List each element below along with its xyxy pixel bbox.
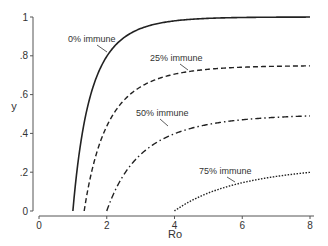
y-tick-label: 1 <box>22 12 28 23</box>
x-axis-label: Ro <box>168 228 182 240</box>
y-tick-label: 0 <box>22 206 28 217</box>
y-tick-label: .8 <box>20 50 29 61</box>
x-tick-label: 2 <box>104 220 110 231</box>
chart: 0.2.4.6.8102468 0% immune25% immune50% i… <box>0 0 328 246</box>
curve-label: 50% immune <box>136 108 189 118</box>
curve-label: 0% immune <box>68 34 116 44</box>
curve-labels: 0% immune25% immune50% immune75% immune <box>68 34 252 182</box>
axes: 0.2.4.6.8102468 <box>20 12 314 232</box>
curve-75-immune <box>175 172 311 211</box>
y-axis-label: y <box>11 100 17 112</box>
curve-label: 25% immune <box>150 53 203 63</box>
curve-25-immune <box>84 66 310 211</box>
curves <box>73 17 310 211</box>
x-tick-label: 0 <box>36 220 42 231</box>
x-tick-label: 6 <box>239 220 245 231</box>
curve-0-immune <box>73 17 310 211</box>
y-tick-label: .6 <box>20 89 29 100</box>
curve-50-immune <box>107 116 310 211</box>
x-tick-label: 8 <box>307 220 313 231</box>
curve-label: 75% immune <box>199 166 252 176</box>
y-tick-label: .2 <box>20 167 29 178</box>
y-tick-label: .4 <box>20 128 29 139</box>
